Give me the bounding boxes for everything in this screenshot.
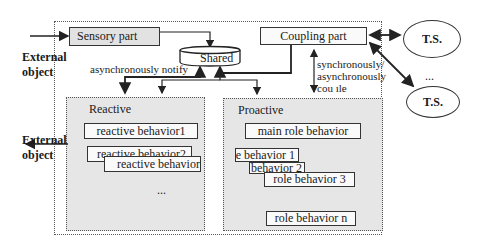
sensory-part-box: Sensory part	[69, 27, 160, 46]
ts-node-1-label: T.S.	[422, 32, 442, 47]
couple-mode-label: synchronously/ asynchronously cou ıle	[317, 58, 386, 94]
ts-ellipsis: ...	[425, 69, 434, 84]
external-object-input: External object	[22, 50, 67, 80]
role-behavior-3-label: role behavior 3	[273, 172, 346, 187]
external-object-output-line2: object	[22, 148, 67, 163]
external-object-output-line1: External	[22, 133, 67, 148]
coupling-part-box: Coupling part	[260, 27, 367, 45]
sensory-part-label: Sensory part	[77, 29, 137, 44]
role-behavior-n: role behavior n	[266, 211, 356, 226]
external-object-input-line2: object	[22, 65, 67, 80]
async-notify-label: asynchronously notify	[90, 63, 188, 75]
reactive-behavior-1: reactive behavior1	[84, 123, 198, 139]
role-behavior-n-label: role behavior n	[275, 211, 348, 226]
role-behavior-1: role behavior 1	[235, 148, 299, 162]
role-behavior-3: role behavior 3	[264, 172, 355, 187]
main-role-behavior-label: main role behavior	[258, 124, 349, 139]
external-object-output: External object	[22, 133, 67, 163]
coupling-part-label: Coupling part	[280, 29, 346, 44]
reactive-behavior-3-label: reactive behavior	[117, 157, 200, 172]
reactive-behavior-1-label: reactive behavior1	[97, 124, 186, 139]
ts-node-2-label: T.S.	[423, 95, 443, 110]
couple-label-line2: asynchronously	[317, 70, 386, 82]
ts-node-1: T.S.	[403, 20, 461, 58]
shared-label: Shared	[200, 51, 233, 66]
role-behavior-1-label: role behavior 1	[235, 148, 295, 162]
couple-label-line1: synchronously/	[317, 58, 386, 70]
reactive-ellipsis: ...	[157, 183, 166, 198]
external-object-input-line1: External	[22, 50, 67, 65]
ts-node-2: T.S.	[406, 86, 460, 118]
main-role-behavior: main role behavior	[245, 123, 361, 139]
reactive-behavior-3: reactive behavior	[104, 156, 201, 172]
couple-label-line3: cou ıle	[317, 82, 386, 94]
